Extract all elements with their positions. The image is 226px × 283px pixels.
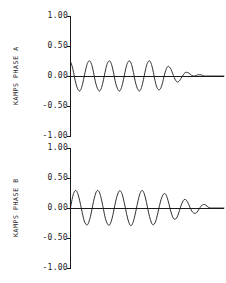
chart-panel-phase-b: KAMPS PHASE B 1.00 0.50 0.00 -0.50 -1.00 [0, 140, 226, 276]
figure-canvas: KAMPS PHASE A 1.00 0.50 0.00 -0.50 -1.00… [0, 0, 226, 283]
plot-area-phase-b [0, 140, 226, 276]
axis-ticks-phase-b [67, 148, 71, 268]
plot-area-phase-a [0, 8, 226, 144]
chart-panel-phase-a: KAMPS PHASE A 1.00 0.50 0.00 -0.50 -1.00 [0, 8, 226, 144]
axis-ticks-phase-a [67, 16, 71, 136]
